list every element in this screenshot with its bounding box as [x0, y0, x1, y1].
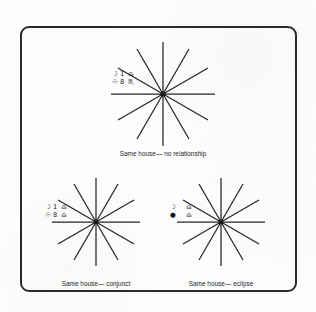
caption-top: Same house— no relationship: [93, 150, 233, 157]
wheel-center-hub: [94, 220, 99, 225]
degree-value: 8: [53, 211, 61, 219]
placement-list-top: ☽1♎ ☉8♏: [112, 70, 134, 86]
placement-list-bottom-right: ☽♎ ●♎: [170, 203, 192, 219]
placement-row: ☽♎: [170, 203, 192, 211]
moon-symbol: ☽: [170, 203, 178, 211]
figure-page: ☽1♎ ☉8♏ Same house— no relationship ☽1♎ …: [0, 0, 316, 312]
placement-row: ●♎: [170, 211, 192, 219]
placement-row: ☽1♎: [45, 203, 67, 211]
degree-value: 1: [120, 70, 128, 78]
wheel-center-hub: [160, 91, 165, 96]
sun-symbol: ☉: [45, 211, 53, 219]
libra-symbol: ♎: [186, 211, 192, 219]
wheel-spokes-bottom-left: [52, 178, 140, 266]
sun-symbol: ☉: [112, 78, 120, 86]
wheel-spokes-bottom-right: [177, 178, 265, 266]
moon-symbol: ☽: [112, 70, 120, 78]
placement-row: ☉8♏: [112, 78, 134, 86]
caption-bottom-left: Same house— conjunct: [36, 280, 156, 287]
moon-symbol: ☽: [45, 203, 53, 211]
chart-wheel-top: [111, 42, 215, 146]
placement-row: ☉8♎: [45, 211, 67, 219]
libra-symbol: ♎: [186, 203, 192, 211]
scorpio-symbol: ♏: [128, 78, 134, 86]
chart-wheel-bottom-left: [52, 178, 140, 266]
libra-symbol: ♎: [61, 211, 67, 219]
eclipsed-sun-symbol: ●: [170, 211, 178, 219]
wheel-center-hub: [219, 220, 224, 225]
degree-value: 8: [120, 78, 128, 86]
libra-symbol: ♎: [61, 203, 67, 211]
wheel-spokes-top: [111, 42, 215, 146]
libra-symbol: ♎: [128, 70, 134, 78]
caption-bottom-right: Same house— eclipse: [161, 280, 281, 287]
placement-list-bottom-left: ☽1♎ ☉8♎: [45, 203, 67, 219]
chart-wheel-bottom-right: [177, 178, 265, 266]
placement-row: ☽1♎: [112, 70, 134, 78]
degree-value: 1: [53, 203, 61, 211]
